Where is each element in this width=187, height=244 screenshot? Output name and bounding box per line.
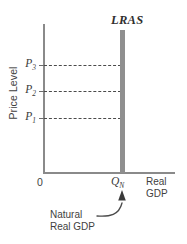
x-axis-title-line2: GDP (146, 188, 186, 200)
lras-curve-label: LRAS (111, 13, 143, 28)
lras-chart-figure: Price Level P3 P2 P1 LRAS 0 QN Real GDP … (0, 0, 187, 244)
p1-subscript: 1 (32, 116, 36, 125)
annotation-line2: Real GDP (50, 221, 95, 233)
annotation-label: Natural Real GDP (50, 209, 95, 233)
annotation-arrow-icon (96, 186, 146, 222)
y-tick-label-p2: P2 (14, 84, 36, 98)
p2-subscript: 2 (32, 89, 36, 98)
y-tick-label-p3: P3 (14, 58, 36, 72)
y-axis-line (43, 24, 45, 173)
p3-subscript: 3 (32, 63, 36, 72)
tick-mark-p3 (39, 65, 44, 66)
gridline-p3 (44, 65, 121, 66)
x-axis-title-line1: Real (146, 176, 186, 188)
y-tick-label-p1: P1 (14, 111, 36, 125)
lras-curve (120, 30, 125, 173)
tick-mark-p1 (39, 118, 44, 119)
gridline-p2 (44, 91, 121, 92)
tick-mark-p2 (39, 91, 44, 92)
origin-label: 0 (37, 176, 43, 188)
x-axis-line (43, 172, 175, 174)
x-axis-title: Real GDP (146, 176, 186, 199)
annotation-line1: Natural (50, 209, 95, 221)
gridline-p1 (44, 118, 121, 119)
